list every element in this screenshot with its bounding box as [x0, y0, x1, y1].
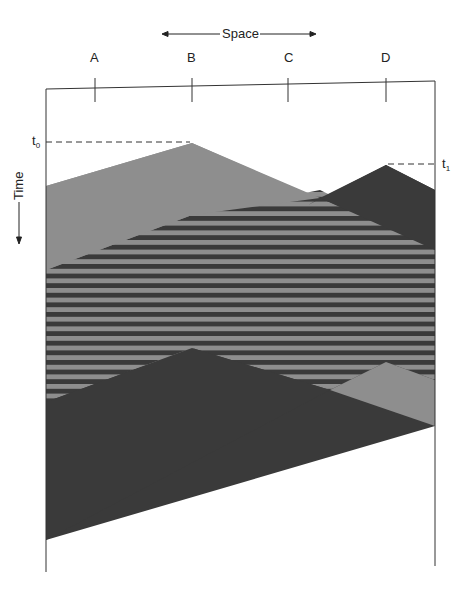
t0-label: t0 [32, 134, 40, 150]
time-arrow-icon [17, 202, 22, 244]
location-label-a: A [90, 51, 99, 64]
spacetime-diagram [0, 0, 472, 598]
location-ticks [95, 78, 386, 102]
t1-label: t1 [442, 157, 450, 173]
space-label: Space [222, 27, 259, 40]
time-label: Time [12, 172, 25, 200]
location-label-d: D [381, 51, 390, 64]
location-label-b: B [187, 51, 196, 64]
location-label-c: C [284, 51, 293, 64]
